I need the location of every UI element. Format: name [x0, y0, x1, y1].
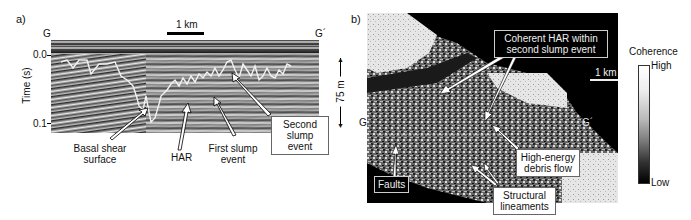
vertical-scale-label: 75 m [335, 77, 346, 107]
annotation-first-slump-line1: First slump [208, 143, 258, 154]
panel-b-endpoint-left: G [359, 117, 367, 128]
arrow-down-icon: ▼ [337, 122, 344, 129]
y-tick-1: 0.1 [33, 118, 47, 129]
colorbar-title: Coherence [629, 46, 678, 57]
colorbar-high-label: High [651, 60, 672, 71]
annotation-coherent-har: Coherent HAR within second slump event [494, 30, 608, 58]
panel-b-endpoint-right: G´ [582, 117, 593, 128]
panel-a-endpoint-left: G [43, 28, 51, 39]
coherence-colorbar [638, 65, 650, 184]
annotation-lineaments-line1: Structural [497, 190, 552, 201]
annotation-faults: Faults [374, 176, 409, 193]
annotation-second-slump-line2: slump event [275, 130, 325, 152]
annotation-first-slump-line2: event [208, 154, 258, 165]
annotation-basal-shear-line1: Basal shear [70, 143, 130, 154]
y-tick-mark-0 [47, 55, 51, 56]
annotation-basal-shear-line2: surface [70, 154, 130, 165]
annotation-structural-lineaments: Structural lineaments [493, 187, 556, 215]
annotation-har: HAR [171, 152, 192, 163]
annotation-basal-shear: Basal shear surface [70, 143, 130, 165]
y-tick-0: 0.0 [33, 49, 47, 60]
y-axis-label: Time (s) [21, 66, 32, 106]
arrow-up-icon: ▲ [337, 56, 344, 63]
colorbar-low-label: Low [651, 177, 669, 188]
panel-b-label: b) [351, 14, 361, 25]
panel-a-label: a) [16, 14, 26, 25]
panel-b-scale-bar [590, 79, 618, 81]
annotation-second-slump-line1: Second [275, 119, 325, 130]
panel-b-scale-label: 1 km [595, 67, 617, 78]
panel-a-scale-label: 1 km [176, 19, 198, 30]
y-tick-mark-1 [47, 123, 51, 124]
panel-a-endpoint-right: G´ [315, 28, 326, 39]
annotation-second-slump: Second slump event [271, 116, 329, 155]
annotation-lineaments-line2: lineaments [497, 201, 552, 212]
panel-a-scale-bar [167, 32, 204, 35]
annotation-coherent-har-line1: Coherent HAR within [497, 33, 605, 44]
annotation-debris-flow: High-energy debris flow [516, 149, 580, 177]
annotation-debris-flow-line2: debris flow [520, 163, 576, 174]
annotation-debris-flow-line1: High-energy [520, 152, 576, 163]
annotation-coherent-har-line2: second slump event [497, 44, 605, 55]
annotation-first-slump: First slump event [208, 143, 258, 165]
